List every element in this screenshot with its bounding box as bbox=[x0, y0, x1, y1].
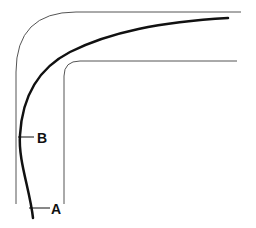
outer-wall bbox=[16, 12, 241, 204]
label-b: B bbox=[37, 130, 47, 146]
corner-path-diagram: B A bbox=[0, 0, 256, 228]
travel-path bbox=[20, 18, 228, 218]
label-a: A bbox=[51, 201, 61, 217]
inner-wall bbox=[64, 61, 237, 204]
